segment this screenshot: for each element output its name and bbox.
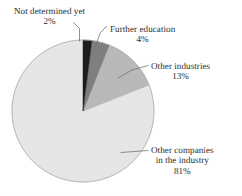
pie-label-other-companies-value: 81%	[151, 166, 214, 176]
pie-label-other-companies-text-line1: Other companies	[151, 145, 214, 155]
pie-chart-figure: Not determined yet 2% Further education …	[0, 0, 242, 196]
pie-label-other-industries-text: Other industries	[151, 61, 210, 71]
pie-label-not-determined-value: 2%	[14, 16, 85, 26]
pie-label-not-determined-text: Not determined yet	[14, 6, 85, 16]
pie-label-further-education-value: 4%	[110, 34, 175, 44]
pie-label-not-determined: Not determined yet 2%	[14, 6, 85, 27]
pie-label-further-education-text: Further education	[110, 24, 175, 34]
pie-label-other-companies-text-line2: in the industry	[151, 155, 214, 165]
pie-label-other-industries: Other industries 13%	[151, 61, 210, 82]
pie-label-further-education: Further education 4%	[110, 24, 175, 45]
pie-label-other-industries-value: 13%	[151, 71, 210, 81]
pie-label-other-companies: Other companies in the industry 81%	[151, 145, 214, 176]
